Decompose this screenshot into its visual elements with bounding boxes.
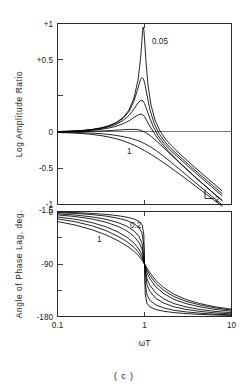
phase-y-ticklabels: 0 -90 -180 [37,208,54,322]
magnitude-plot-frame [58,24,232,205]
bode-plot-figure: +1 +0.5 0 -0.5 -1 -1.5 0.05 1 2 Log Ampl… [0,0,249,387]
annotation-zeta-1-phase: 1 [97,235,102,244]
phase-y-ticks [58,212,63,317]
magnitude-curve-zeta-0_1 [58,78,223,194]
magnitude-ytick-1: +0.5 [37,56,54,65]
xtick-10: 10 [227,321,237,330]
magnitude-ytick-2: 0 [48,128,53,137]
magnitude-annotations: 0.05 1 2 [127,37,220,204]
magnitude-ytick-3: -0.5 [39,164,54,173]
xtick-0_1: 0.1 [52,321,64,330]
xtick-1: 1 [142,321,147,330]
x-ticklabels: 0.1 1 10 [52,321,237,330]
phase-y-axis-title: Angle of Phase Lag, deg. [14,210,24,318]
magnitude-curve-zeta-0_05 [58,27,223,191]
x-axis-title: ωT [139,338,151,348]
magnitude-ytick-0: +1 [44,20,54,29]
magnitude-y-ticklabels: +1 +0.5 0 -0.5 -1 -1.5 [37,20,54,215]
magnitude-y-ticks [58,24,63,205]
magnitude-y-axis-title: Log Amplitude Ratio [14,71,24,157]
phase-plot [58,212,232,317]
annotation-zeta-0_05: 0.05 [152,37,168,46]
annotation-zeta-1-magnitude: 1 [127,147,132,156]
figure-caption: ( c ) [114,371,134,381]
magnitude-plot [58,24,232,207]
annotation-zeta-0_2-phase: 0.2 [130,221,142,230]
magnitude-curve-zeta-0_7 [58,132,223,205]
magnitude-curve-zeta-0_5 [58,129,223,200]
phase-ytick-0: 0 [48,208,53,217]
annotation-slope-2: 2 [215,195,220,204]
phase-ytick-1: -90 [41,260,53,269]
bode-plot-svg: +1 +0.5 0 -0.5 -1 -1.5 0.05 1 2 Log Ampl… [0,0,249,387]
